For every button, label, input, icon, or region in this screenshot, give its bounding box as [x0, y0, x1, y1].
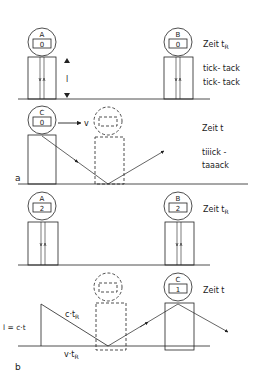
tick-tack-2: tick- tack: [203, 78, 240, 87]
clock-reading: 0: [40, 119, 44, 127]
clock-a-bottom: A 2: [28, 192, 58, 265]
clock-reading: 1: [176, 286, 180, 294]
clock-name: A: [40, 195, 45, 203]
clock-name: A: [40, 31, 45, 39]
clock-body: [28, 57, 56, 99]
length-dimension: l: [64, 58, 70, 98]
zeit-t-label: Zeit t: [202, 124, 223, 133]
clock-reading: 2: [40, 205, 44, 213]
length-label: l: [66, 75, 68, 84]
clock-c-moving: C 0: [28, 106, 56, 184]
light-path-down: [178, 304, 228, 332]
velocity-label: v: [84, 119, 89, 128]
clock-a-top: A 0: [28, 28, 56, 99]
clock-reading: 0: [176, 41, 180, 49]
zeit-tr-label: Zeit tR: [203, 205, 229, 215]
tick-tack-1: tick- tack: [203, 64, 240, 73]
taaack-label: taaack: [202, 161, 229, 170]
light-path-up: [108, 151, 164, 184]
zeit-t-label: Zeit t: [203, 286, 224, 295]
height-label: l = c·t: [3, 323, 26, 332]
base-label: v·tR: [64, 350, 79, 360]
hypotenuse-label: c·tR: [65, 310, 79, 320]
clock-reading: 0: [40, 41, 44, 49]
clock-reading: 2: [176, 205, 180, 213]
clock-name: C: [176, 276, 181, 284]
clock-b-top: B 0: [164, 28, 193, 99]
clock-name: B: [176, 195, 181, 203]
tiiick-label: tiiick -: [202, 148, 226, 157]
light-clock-diagram: A 0 l B 0 Zeit tR tick- tack tick-: [0, 0, 261, 378]
clock-name: B: [176, 31, 181, 39]
clock-name: C: [40, 109, 45, 117]
zeit-tr-label: Zeit tR: [203, 40, 229, 50]
panel-b-label: b: [15, 362, 21, 372]
panel-b: A 2 B 2 Zeit tR: [3, 192, 229, 372]
clock-c-moved: C 1: [164, 273, 194, 350]
panel-a: A 0 l B 0 Zeit tR tick- tack tick-: [15, 28, 248, 184]
ghost-clock: [94, 107, 124, 184]
panel-a-label: a: [15, 173, 21, 183]
clock-b-bottom: B 2: [164, 192, 194, 265]
